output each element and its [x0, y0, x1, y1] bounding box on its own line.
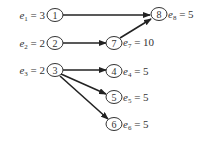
node-3: 3 — [47, 64, 63, 77]
svg-text:1: 1 — [53, 10, 58, 21]
node-2: 2 — [47, 37, 63, 50]
node-8: 8 — [151, 8, 167, 21]
graph-canvas: e1 = 3 e2 = 2 e3 = 2 e8 = 5 e7 = 10 e4 =… — [0, 0, 208, 144]
node-7-label: e7 = 10 — [123, 36, 155, 50]
svg-text:4: 4 — [112, 66, 117, 77]
node-6: 6 — [106, 118, 122, 131]
node-6-label: e6 = 5 — [123, 118, 149, 132]
node-5-label: e5 = 5 — [123, 91, 149, 105]
node-5: 5 — [106, 91, 122, 104]
svg-text:8: 8 — [157, 9, 162, 20]
svg-text:7: 7 — [112, 38, 117, 49]
node-4: 4 — [106, 65, 122, 78]
svg-text:5: 5 — [112, 92, 117, 103]
svg-text:6: 6 — [112, 119, 117, 130]
node-7: 7 — [106, 37, 122, 50]
node-1-label: e1 = 3 — [19, 9, 45, 23]
svg-text:2: 2 — [53, 38, 58, 49]
node-1: 1 — [47, 9, 63, 22]
node-3-label: e3 = 2 — [19, 64, 45, 78]
node-2-label: e2 = 2 — [19, 37, 45, 51]
edge-3-6 — [60, 76, 108, 119]
svg-text:3: 3 — [53, 65, 58, 76]
node-4-label: e4 = 5 — [123, 65, 149, 79]
node-8-label: e8 = 5 — [168, 8, 194, 22]
